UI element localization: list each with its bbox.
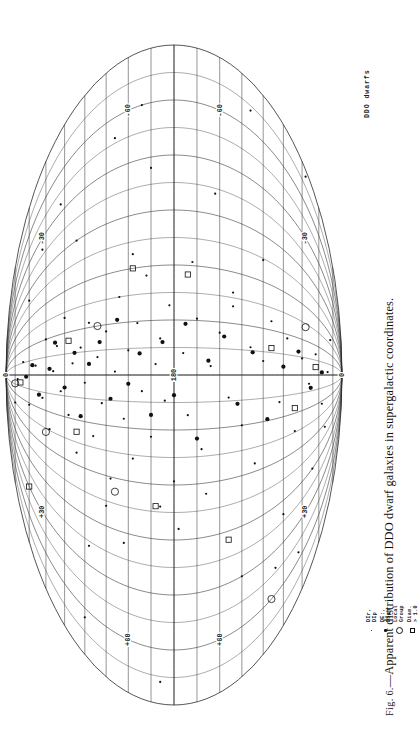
data-point	[270, 320, 272, 322]
data-point	[83, 382, 85, 384]
data-point	[250, 350, 254, 354]
data-point	[140, 390, 142, 392]
data-point	[194, 436, 198, 440]
data-point	[253, 462, 255, 464]
small-dot-icon	[366, 622, 380, 636]
data-point	[59, 390, 61, 392]
data-point	[100, 402, 102, 404]
data-point	[326, 371, 328, 373]
grid-label: -30	[38, 232, 46, 245]
grid-label: -60	[215, 104, 223, 117]
data-point	[319, 370, 323, 374]
data-point	[265, 417, 269, 421]
legend-label: Diam. > 1.0	[407, 605, 420, 622]
series-3	[17, 266, 317, 543]
data-point	[168, 304, 170, 306]
data-point	[160, 340, 164, 344]
data-point	[96, 356, 98, 358]
data-point	[311, 467, 313, 469]
grid-label: -30	[301, 232, 309, 245]
data-point	[286, 337, 288, 339]
data-point	[231, 305, 233, 307]
data-point	[154, 363, 156, 365]
grid-label: 0	[1, 373, 9, 377]
grid-label: +30	[38, 505, 46, 518]
legend-item-dir: DIr, DIp	[366, 605, 380, 636]
data-point	[293, 430, 295, 432]
data-point	[209, 365, 211, 367]
legend-item-diam: Diam. > 1.0	[407, 605, 420, 636]
data-point	[131, 253, 133, 255]
data-point	[72, 351, 76, 355]
data-point	[191, 261, 193, 263]
meridian--105	[6, 375, 342, 568]
data-point	[149, 436, 151, 438]
data-point	[249, 109, 251, 111]
data-point	[11, 380, 18, 387]
data-point	[307, 383, 309, 385]
data-point	[87, 322, 89, 324]
data-point	[313, 365, 318, 370]
data-point	[36, 393, 40, 397]
data-point	[41, 397, 43, 399]
data-point	[97, 340, 101, 344]
data-point	[59, 203, 61, 205]
meridian-45	[6, 293, 342, 376]
data-point	[14, 401, 16, 403]
data-point	[278, 401, 280, 403]
data-point	[126, 382, 130, 386]
data-point	[185, 272, 190, 277]
data-point	[109, 477, 111, 479]
data-point	[92, 435, 94, 437]
data-point	[235, 402, 239, 406]
data-point	[262, 259, 264, 261]
data-point	[86, 362, 90, 366]
data-point	[296, 350, 300, 354]
meridian--165	[6, 375, 342, 678]
data-point	[268, 346, 273, 351]
data-point	[122, 418, 124, 420]
grid-label: -60	[124, 104, 132, 117]
grid-label: +60	[215, 633, 223, 646]
data-point	[17, 380, 22, 385]
data-point	[249, 346, 251, 348]
data-point	[320, 403, 322, 405]
meridian-165	[6, 73, 342, 376]
figure-caption: Fig. 6.—Apparent distribution of DDO dwa…	[382, 298, 397, 716]
grid-label: 180	[169, 369, 177, 382]
data-point	[41, 249, 43, 251]
data-point	[227, 396, 229, 398]
data-point	[127, 349, 129, 351]
data-point	[206, 359, 210, 363]
legend-label: DIr, DIp	[366, 605, 380, 622]
data-point	[63, 317, 65, 319]
data-point	[195, 318, 197, 320]
data-point	[136, 322, 138, 324]
meridian--135	[6, 375, 342, 623]
data-point	[300, 357, 302, 359]
data-point	[42, 428, 49, 435]
data-point	[301, 324, 308, 331]
data-point	[73, 429, 78, 434]
data-point	[131, 457, 133, 459]
data-point	[200, 448, 202, 450]
data-point	[137, 351, 141, 355]
data-point	[115, 318, 119, 322]
data-point	[159, 337, 161, 339]
data-point	[83, 616, 85, 618]
sky-map-plate: 0000180180+30+30-30-30+60+60-60-60+30+30…	[0, 25, 349, 725]
data-point	[304, 176, 306, 178]
data-point	[177, 528, 179, 530]
data-point	[65, 338, 70, 343]
meridian-135	[6, 128, 342, 376]
data-point	[71, 362, 73, 364]
data-point	[171, 393, 175, 397]
grid-label: +30	[301, 505, 309, 518]
data-point	[323, 426, 325, 428]
data-point	[172, 480, 174, 482]
data-point	[308, 386, 312, 390]
caption-body: —Apparent distribution of DDO dwarf gala…	[382, 298, 396, 687]
data-point	[47, 367, 51, 371]
data-point	[140, 104, 142, 106]
